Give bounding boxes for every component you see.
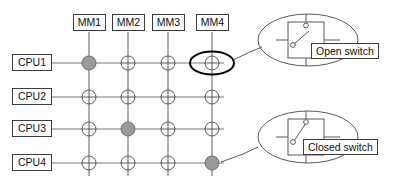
cpu-label-cpu1-text: CPU1 xyxy=(18,57,46,68)
grid-row-lines xyxy=(52,63,224,163)
cpu-label-cpu2[interactable]: CPU2 xyxy=(12,88,52,105)
open-switch-label: Open switch xyxy=(311,43,379,59)
open-switch-lever xyxy=(294,31,309,44)
memory-label-mm2[interactable]: MM2 xyxy=(112,14,145,31)
leader-line-closed-switch xyxy=(221,147,258,162)
cpu-label-cpu1[interactable]: CPU1 xyxy=(12,54,52,71)
crosspoint-cpu2-mm2[interactable] xyxy=(121,90,135,104)
crosspoint-cpu4-mm1[interactable] xyxy=(82,156,96,170)
crosspoint-cpu2-mm3[interactable] xyxy=(161,90,175,104)
closed-switch-label-text: Closed switch xyxy=(308,142,373,153)
crosspoint-cpu1-mm1[interactable] xyxy=(82,56,96,70)
memory-label-mm2-text: MM2 xyxy=(117,17,140,28)
memory-label-mm1-text: MM1 xyxy=(78,17,101,28)
crossbar-switch-diagram: MM1 MM2 MM3 MM4 CPU1 CPU2 CPU3 CPU4 Open… xyxy=(0,0,394,180)
closed-switch-label: Closed switch xyxy=(303,139,378,155)
crosspoint-cpu1-mm3[interactable] xyxy=(161,56,175,70)
crosspoint-cpu2-mm1[interactable] xyxy=(82,90,96,104)
leader-line-open-switch xyxy=(233,47,262,60)
open-switch-pivot-dot xyxy=(291,43,296,48)
closed-switch-contact-dot xyxy=(304,120,309,125)
grid-column-lines xyxy=(89,32,212,176)
memory-label-mm4-text: MM4 xyxy=(201,17,224,28)
crosspoint-cpu3-mm3[interactable] xyxy=(161,122,175,136)
crosspoint-cpu3-mm1[interactable] xyxy=(82,122,96,136)
crosspoint-cpu2-mm4[interactable] xyxy=(205,90,219,104)
memory-label-mm3-text: MM3 xyxy=(157,17,180,28)
crosspoint-cpu4-mm3[interactable] xyxy=(161,156,175,170)
crosspoint-cpu3-mm2[interactable] xyxy=(121,122,135,136)
crosspoint-cpu1-mm2[interactable] xyxy=(121,56,135,70)
cpu-label-cpu4[interactable]: CPU4 xyxy=(12,154,52,171)
cpu-label-cpu4-text: CPU4 xyxy=(18,157,46,168)
crosspoint-cpu3-mm4[interactable] xyxy=(205,122,219,136)
closed-switch-callout-group xyxy=(258,111,358,163)
memory-label-mm4[interactable]: MM4 xyxy=(196,14,229,31)
cpu-label-cpu3[interactable]: CPU3 xyxy=(12,120,52,137)
closed-switch-pivot-dot xyxy=(291,140,296,145)
cpu-label-cpu2-text: CPU2 xyxy=(18,91,46,102)
open-switch-label-text: Open switch xyxy=(316,46,374,57)
crosspoint-cpu4-mm4[interactable] xyxy=(205,156,219,170)
cpu-label-cpu3-text: CPU3 xyxy=(18,123,46,134)
memory-label-mm3[interactable]: MM3 xyxy=(152,14,185,31)
crosspoint-cpu4-mm2[interactable] xyxy=(121,156,135,170)
open-switch-contact-dot xyxy=(304,23,309,28)
memory-label-mm1[interactable]: MM1 xyxy=(73,14,106,31)
crosspoint-cpu1-mm4[interactable] xyxy=(205,56,219,70)
